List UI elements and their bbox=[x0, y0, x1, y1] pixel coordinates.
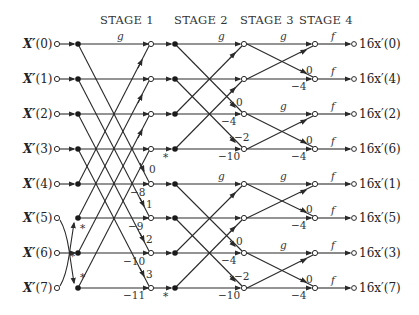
conj-mark-s2-3: * bbox=[163, 151, 169, 163]
stage-1-nodes bbox=[75, 41, 81, 291]
g-label-s2-4: g bbox=[218, 170, 225, 182]
s2-twiddle-down-3: −2 bbox=[234, 270, 249, 282]
s2-twiddle-h-2: −4 bbox=[221, 115, 237, 127]
f-label-7: f bbox=[330, 274, 337, 286]
f-label-3: f bbox=[330, 135, 337, 147]
g-label-s3-4: g bbox=[280, 170, 287, 182]
s3-twiddle-h-1: −4 bbox=[291, 80, 307, 92]
s1-twiddle-h-7: −11 bbox=[123, 289, 145, 301]
f-label-0: f bbox=[330, 30, 337, 42]
s2-twiddle-h-3: −10 bbox=[218, 150, 240, 162]
g-label-s3-6: g bbox=[280, 239, 287, 251]
s1-twiddle-h-6: −10 bbox=[123, 255, 145, 267]
g-label-s1: g bbox=[117, 30, 124, 42]
inter-stage-wires: * * bbox=[154, 44, 171, 302]
s1-twiddle-h-5: −9 bbox=[128, 220, 143, 232]
s3-twiddle-down-1: 0 bbox=[306, 64, 313, 76]
stage-2-label: STAGE 2 bbox=[174, 13, 228, 27]
g-label-s2-0: g bbox=[218, 30, 225, 42]
output-label-2: 16x′(2) bbox=[359, 107, 401, 121]
stage-4-label: STAGE 4 bbox=[299, 13, 353, 27]
conj-mark-6: * bbox=[70, 250, 76, 262]
s2-twiddle-down-2: 0 bbox=[236, 235, 243, 247]
s1-twiddle-down-2: 2 bbox=[146, 233, 153, 245]
input-label-1: X′(1) bbox=[22, 72, 52, 86]
s1-twiddle-h-4: −8 bbox=[130, 186, 145, 198]
f-label-6: f bbox=[330, 239, 337, 251]
input-label-7: X′(7) bbox=[22, 281, 52, 295]
input-labels: X′X′(0)(0) X′(1) X′(2) X′(3) X′(4) X′(5)… bbox=[22, 37, 52, 295]
output-label-4: 16x′(1) bbox=[359, 177, 401, 191]
conj-mark-s2-7: * bbox=[163, 290, 169, 302]
s1-twiddle-down-3: 3 bbox=[146, 268, 153, 280]
output-label-6: 16x′(3) bbox=[359, 246, 401, 260]
s3-twiddle-h-7: −4 bbox=[291, 289, 307, 301]
input-label-6: X′(6) bbox=[22, 246, 52, 260]
stage-4-wires: f f f f f f f f bbox=[318, 30, 350, 288]
stage-2-nodes bbox=[172, 41, 178, 291]
s3-twiddle-down-5: 0 bbox=[306, 203, 313, 215]
input-label-3: X′(3) bbox=[22, 142, 52, 156]
stage-2-labels: g g 0 −2 0 −2 −4 −10 −4 −10 bbox=[218, 30, 249, 301]
s2-twiddle-down-0: 0 bbox=[236, 96, 243, 108]
output-label-1: 16x′(4) bbox=[359, 72, 401, 86]
f-label-4: f bbox=[330, 170, 337, 182]
input-wires: * * * bbox=[60, 44, 86, 286]
stage-1-label: STAGE 1 bbox=[100, 13, 154, 27]
conj-mark-7: * bbox=[80, 271, 86, 283]
f-label-1: f bbox=[330, 65, 337, 77]
f-label-5: f bbox=[330, 204, 337, 216]
s3-twiddle-down-7: 0 bbox=[306, 273, 313, 285]
s1-twiddle-down-0: 0 bbox=[149, 163, 156, 175]
s1-twiddle-down-1: 1 bbox=[146, 198, 153, 210]
s3-twiddle-down-3: 0 bbox=[306, 134, 313, 146]
stage-1-wires bbox=[78, 44, 149, 288]
input-label-2: X′(2) bbox=[22, 107, 52, 121]
f-label-2: f bbox=[330, 100, 337, 112]
output-label-0: 16x′(0) bbox=[359, 37, 401, 51]
fft-flow-graph: STAGE 1 STAGE 2 STAGE 3 STAGE 4 X′X′(0)(… bbox=[0, 0, 419, 315]
stage-2-wires bbox=[175, 44, 242, 288]
stage-headers: STAGE 1 STAGE 2 STAGE 3 STAGE 4 bbox=[100, 13, 353, 27]
g-label-s3-0: g bbox=[280, 30, 287, 42]
input-label-5: X′(5) bbox=[22, 211, 52, 225]
output-label-3: 16x′(6) bbox=[359, 142, 401, 156]
conj-mark-5: * bbox=[80, 222, 86, 234]
s2-twiddle-down-1: −2 bbox=[234, 131, 249, 143]
stage-2-output-nodes bbox=[241, 41, 246, 290]
s2-twiddle-h-6: −4 bbox=[221, 254, 237, 266]
input-nodes bbox=[54, 41, 59, 290]
input-label-0: X′X′(0)(0) bbox=[22, 37, 52, 51]
output-label-7: 16x′(7) bbox=[359, 281, 401, 295]
g-label-s3-2: g bbox=[280, 100, 287, 112]
s3-twiddle-h-5: −4 bbox=[291, 219, 307, 231]
output-labels: 16x′(0) 16x′(4) 16x′(2) 16x′(6) 16x′(1) … bbox=[359, 37, 401, 295]
s2-twiddle-h-7: −10 bbox=[218, 289, 240, 301]
stage-3-labels: g g g g 0 0 0 0 −4 −4 −4 −4 bbox=[280, 30, 313, 301]
s3-twiddle-h-3: −4 bbox=[291, 150, 307, 162]
output-nodes bbox=[352, 42, 357, 291]
stage-3-label: STAGE 3 bbox=[240, 13, 294, 27]
output-label-5: 16x′(5) bbox=[359, 211, 401, 225]
input-label-4: X′(4) bbox=[22, 177, 52, 191]
stage-3-output-nodes bbox=[312, 41, 317, 290]
